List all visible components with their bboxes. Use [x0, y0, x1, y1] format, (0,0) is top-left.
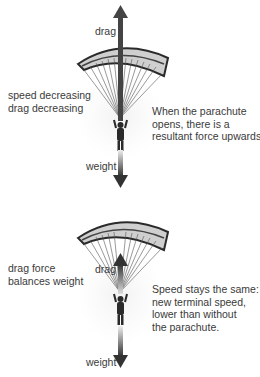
left-caption-line: speed decreasing — [8, 89, 91, 102]
left-caption-line: drag decreasing — [8, 102, 91, 115]
left-caption-line: balances weight — [8, 275, 83, 288]
drag-label: drag — [95, 25, 116, 38]
right-caption-line: new terminal speed, — [152, 296, 259, 309]
panel-terminal-speed: drag weight drag force balances weight S… — [0, 190, 260, 377]
right-caption: When the parachute opens, there is a res… — [152, 105, 260, 143]
weight-label: weight — [86, 356, 116, 369]
left-caption: drag force balances weight — [8, 262, 83, 287]
right-caption-line: the parachute. — [152, 321, 259, 334]
right-caption-line: Speed stays the same: — [152, 283, 259, 296]
right-caption-line: When the parachute — [152, 105, 260, 118]
right-caption-line: lower than without — [152, 308, 259, 321]
right-caption-line: resultant force upwards. — [152, 130, 260, 143]
panel-parachute-opening: drag weight speed decreasing drag decrea… — [0, 0, 260, 190]
weight-label: weight — [86, 160, 116, 173]
parachute-canopy-icon — [78, 222, 168, 250]
left-caption-line: drag force — [8, 262, 83, 275]
left-caption: speed decreasing drag decreasing — [8, 89, 91, 114]
drag-label: drag — [95, 263, 116, 276]
right-caption-line: opens, there is a — [152, 118, 260, 131]
right-caption: Speed stays the same: new terminal speed… — [152, 283, 259, 333]
